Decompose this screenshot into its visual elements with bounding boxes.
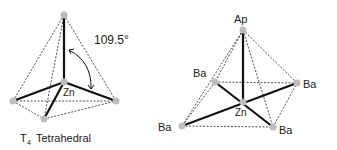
tetrahedral-diagram: Zn 109.5° T 4 Tetrahedral <box>10 12 130 147</box>
coordination-geometry-figure: Zn 109.5° T 4 Tetrahedral <box>0 0 337 150</box>
caption-subscript: 4 <box>27 139 31 146</box>
basal-label-right: Ba <box>303 78 317 90</box>
caption-text: Tetrahedral <box>36 132 91 144</box>
square-pyramidal-diagram: Ap Zn Ba Ba Ba Ba <box>158 13 317 136</box>
basal-label-back-left: Ba <box>193 67 207 79</box>
zn-label-right: Zn <box>235 107 247 118</box>
caption-prefix: T <box>20 132 27 144</box>
zn-label-left: Zn <box>63 87 75 98</box>
angle-label: 109.5° <box>94 33 129 47</box>
basal-label-front-right: Ba <box>279 124 293 136</box>
bond-angle-arc <box>69 49 94 89</box>
basal-label-front-left: Ba <box>158 121 172 133</box>
apex-label: Ap <box>234 13 247 25</box>
tetrahedral-bonds <box>13 15 116 119</box>
